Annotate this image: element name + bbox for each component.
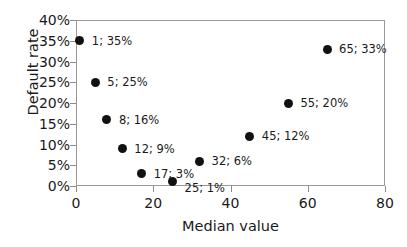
data-point[interactable]: [245, 132, 254, 141]
data-point-label: 65; 33%: [339, 44, 387, 56]
x-axis-tick: [153, 186, 154, 192]
x-axis-tick-label: 80: [363, 196, 407, 210]
data-point-label: 25; 1%: [185, 183, 225, 195]
data-point-label: 8; 16%: [119, 115, 159, 127]
x-axis-tick: [231, 186, 232, 192]
x-axis-tick-label: 40: [209, 196, 253, 210]
y-axis-tick: [70, 124, 76, 125]
y-axis-tick: [70, 103, 76, 104]
x-axis-tick-label: 0: [54, 196, 98, 210]
y-axis-tick-label: 0%: [10, 179, 70, 193]
y-axis-tick: [70, 20, 76, 21]
data-point-label: 5; 25%: [107, 77, 147, 89]
data-point[interactable]: [195, 157, 204, 166]
y-axis-tick: [70, 145, 76, 146]
y-axis-tick: [70, 82, 76, 83]
data-point-label: 55; 20%: [300, 98, 348, 110]
data-point[interactable]: [91, 78, 100, 87]
y-axis-tick: [70, 165, 76, 166]
x-axis-tick: [76, 186, 77, 192]
y-axis-tick-label: 5%: [10, 158, 70, 172]
x-axis-tick-label: 60: [286, 196, 330, 210]
x-axis-tick: [385, 186, 386, 192]
data-point-label: 12; 9%: [134, 144, 174, 156]
data-point[interactable]: [118, 144, 127, 153]
data-point-label: 32; 6%: [212, 156, 252, 168]
y-axis-title: Default rate: [25, 0, 41, 152]
data-point[interactable]: [284, 99, 293, 108]
data-point-label: 45; 12%: [262, 131, 310, 143]
data-point-label: 1; 35%: [92, 36, 132, 48]
data-point[interactable]: [323, 45, 332, 54]
x-axis-title: Median value: [76, 218, 385, 234]
y-axis-tick: [70, 62, 76, 63]
x-axis-tick-label: 20: [131, 196, 175, 210]
scatter-chart: 0%5%10%15%20%25%30%35%40% 020406080 Defa…: [0, 0, 407, 247]
x-axis-tick: [308, 186, 309, 192]
